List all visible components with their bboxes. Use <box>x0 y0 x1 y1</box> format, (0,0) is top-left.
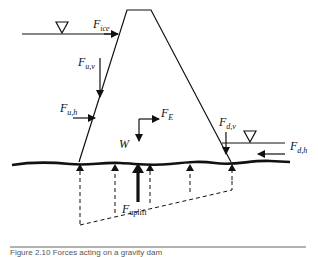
upstream-horizontal-force-arrow: Fu,h <box>59 101 95 118</box>
downstream-vertical-force-label: Fd,v <box>218 115 236 131</box>
uplift-force-label: Fuplift <box>121 202 147 217</box>
downstream-water <box>222 131 285 143</box>
ice-force-label: Fice <box>92 17 110 33</box>
figure-caption: Figure 2.10 Forces acting on a gravity d… <box>10 248 162 257</box>
downstream-horizontal-force-label: Fd,h <box>289 139 307 155</box>
ice-force-arrow: Fice <box>92 17 118 34</box>
upstream-water-level-triangle-icon <box>56 22 68 33</box>
downstream-horizontal-force-arrow: Fd,h <box>258 139 307 155</box>
weight-label: W <box>119 137 130 151</box>
upstream-vertical-force-arrow: Fu,v <box>77 55 100 97</box>
earthquake-force-label: FE <box>160 106 173 122</box>
uplift-pressure-diagram: Fuplift <box>76 163 236 225</box>
foundation-line <box>12 161 290 165</box>
upstream-vertical-force-label: Fu,v <box>77 55 95 71</box>
weight-earthquake-arrows: FE W <box>119 106 173 151</box>
downstream-water-level-triangle-icon <box>244 131 256 142</box>
downstream-vertical-force-arrow: Fd,v <box>218 115 236 154</box>
upstream-horizontal-force-label: Fu,h <box>59 101 77 117</box>
